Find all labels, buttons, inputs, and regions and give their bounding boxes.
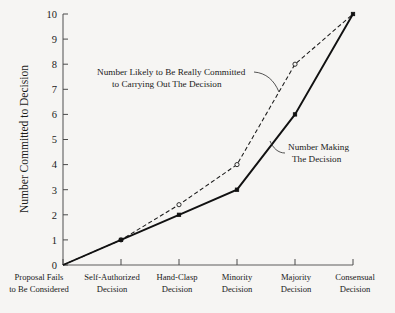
y-tick-label-7: 7 — [52, 84, 57, 95]
y-tick-label-10: 10 — [47, 9, 58, 20]
y-tick-label-3: 3 — [52, 185, 57, 196]
x-label-minority-line2: Decision — [222, 284, 253, 294]
y-tick-label-4: 4 — [52, 159, 58, 170]
y-tick-label-8: 8 — [52, 59, 57, 70]
decision-commitment-line-chart: 0 1 2 3 4 5 6 7 8 9 10 Number Committed … — [0, 0, 395, 313]
x-label-proposal-fails-line2: to Be Considered — [9, 284, 69, 294]
making-annotation-line2: The Decision — [292, 154, 342, 164]
committed-annotation-line2: to Carrying Out The Decision — [112, 79, 222, 89]
x-label-majority-line2: Decision — [281, 284, 312, 294]
x-label-consensual-line1: Consensual — [335, 272, 375, 282]
x-label-minority-line1: Minority — [222, 272, 253, 282]
y-tick-label-6: 6 — [52, 109, 57, 120]
y-tick-label-5: 5 — [52, 134, 57, 145]
x-label-self-authorized-line1: Self-Authorized — [84, 272, 140, 282]
x-label-hand-clasp-line2: Decision — [162, 284, 193, 294]
y-tick-label-2: 2 — [52, 210, 57, 221]
x-label-consensual-line2: Decision — [340, 284, 371, 294]
committed-annotation-line1: Number Likely to Be Really Committed — [97, 67, 246, 77]
y-axis-title: Number Committed to Decision — [18, 65, 30, 213]
y-tick-label-0: 0 — [52, 260, 57, 271]
x-label-proposal-fails-line1: Proposal Fails — [15, 272, 65, 282]
making-annotation-line1: Number Making — [288, 142, 349, 152]
x-label-hand-clasp-line1: Hand-Clasp — [156, 272, 197, 282]
chart-container: 0 1 2 3 4 5 6 7 8 9 10 Number Committed … — [0, 0, 395, 313]
y-tick-label-9: 9 — [52, 34, 57, 45]
y-tick-label-1: 1 — [52, 235, 57, 246]
x-label-self-authorized-line2: Decision — [97, 284, 128, 294]
x-label-majority-line1: Majority — [281, 272, 312, 282]
